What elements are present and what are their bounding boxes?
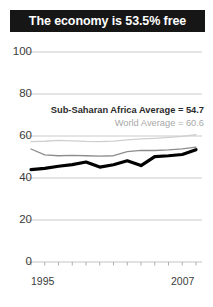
economic-freedom-chart: The economy is 53.5% free 020406080100 1… [0,0,213,307]
x-axis-tick-label-end: 2007 [171,276,194,287]
x-axis-tick-label-start: 1995 [31,276,54,287]
y-axis-tick-label-0: 0 [2,256,32,268]
y-axis-tick-label-40: 40 [2,172,32,184]
series-line-0 [31,150,196,170]
series-label-sub-saharan-africa-average: Sub-Saharan Africa Average = 54.7 [51,106,204,115]
y-axis-tick-label-100: 100 [2,46,32,58]
y-axis-tick-label-80: 80 [2,88,32,100]
y-axis-tick-label-20: 20 [2,214,32,226]
y-axis-tick-label-60: 60 [2,130,32,142]
series-label-world-average: World Average = 60.6 [115,119,204,128]
